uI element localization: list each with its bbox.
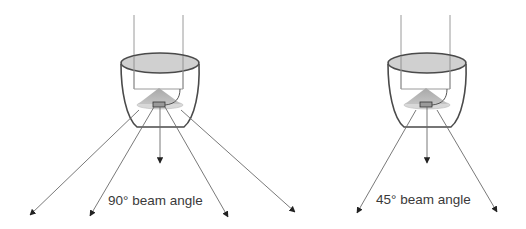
fixture-45-degree: [357, 15, 497, 213]
fixture-90-degree: [30, 15, 295, 217]
led-chip: [420, 102, 432, 107]
led-chip: [153, 102, 165, 107]
beam-angle-label-90: 90° beam angle: [108, 194, 203, 208]
beam-angle-label-45: 45° beam angle: [376, 193, 471, 207]
bowl-rim: [121, 53, 199, 73]
suspension-rod: [134, 15, 183, 89]
bowl-rim: [388, 53, 466, 73]
suspension-rod: [401, 15, 450, 89]
